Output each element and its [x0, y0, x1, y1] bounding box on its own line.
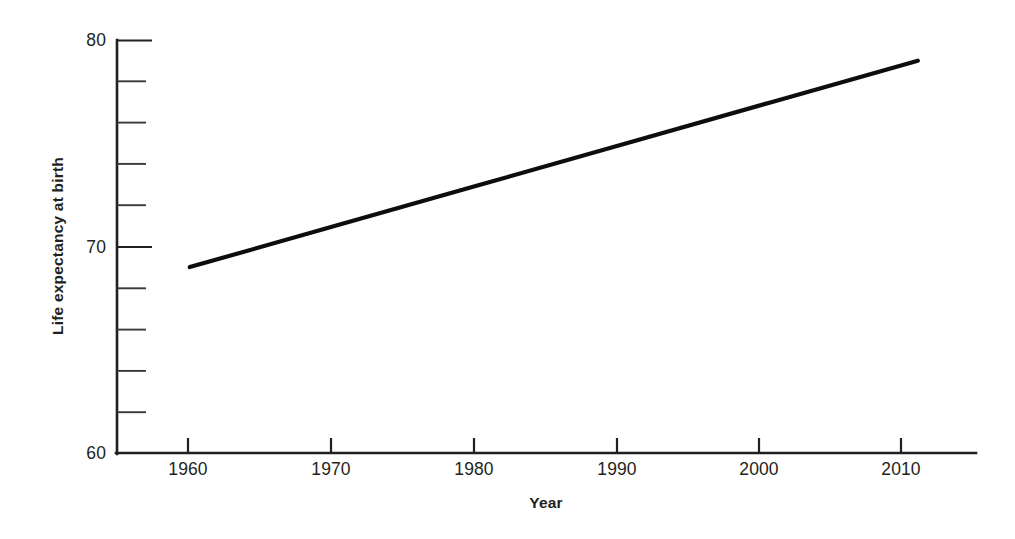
chart-figure: 80 70 60 1960 1970 1980 1990 2000 2010 Y…	[0, 0, 1015, 539]
y-axis-title: Life expectancy at birth	[49, 157, 67, 335]
x-axis	[116, 438, 976, 453]
x-tick-label-1970: 1970	[311, 459, 350, 480]
x-tick-label-1990: 1990	[597, 459, 636, 480]
chart-plot-area	[0, 0, 1015, 539]
data-series-life-expectancy	[190, 61, 918, 267]
y-axis	[117, 40, 152, 454]
y-tick-label-60: 60	[86, 443, 106, 464]
x-tick-label-1960: 1960	[168, 459, 207, 480]
x-axis-title: Year	[529, 494, 563, 512]
y-tick-label-80: 80	[86, 30, 106, 51]
x-tick-label-1980: 1980	[454, 459, 493, 480]
x-tick-label-2010: 2010	[881, 459, 920, 480]
y-tick-label-70: 70	[86, 237, 106, 258]
x-tick-label-2000: 2000	[739, 459, 778, 480]
